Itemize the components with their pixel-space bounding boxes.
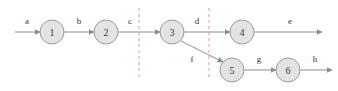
edge-label-d: d	[195, 16, 200, 26]
nodes-layer: 123456	[40, 20, 300, 82]
node-6[interactable]: 6	[276, 58, 300, 82]
node-2[interactable]: 2	[94, 20, 118, 44]
edge-label-h: h	[313, 54, 318, 64]
diagram-canvas: 123456 abcdefgh	[0, 0, 338, 91]
node-4[interactable]: 4	[230, 20, 254, 44]
edge-f	[181, 41, 223, 62]
node-label-3: 3	[170, 27, 175, 38]
node-5[interactable]: 5	[220, 58, 244, 82]
edge-label-f: f	[191, 54, 194, 64]
node-label-6: 6	[286, 65, 291, 76]
node-label-4: 4	[240, 27, 245, 38]
edge-label-e: e	[288, 16, 292, 26]
diagram-svg: 123456 abcdefgh	[0, 0, 338, 91]
node-label-5: 5	[230, 65, 235, 76]
edge-label-c: c	[128, 16, 132, 26]
edge-label-b: b	[77, 16, 82, 26]
edge-label-a: a	[25, 16, 29, 26]
edge-label-g: g	[257, 54, 262, 64]
node-3[interactable]: 3	[160, 20, 184, 44]
node-label-1: 1	[50, 27, 55, 38]
node-1[interactable]: 1	[40, 20, 64, 44]
node-label-2: 2	[104, 27, 109, 38]
